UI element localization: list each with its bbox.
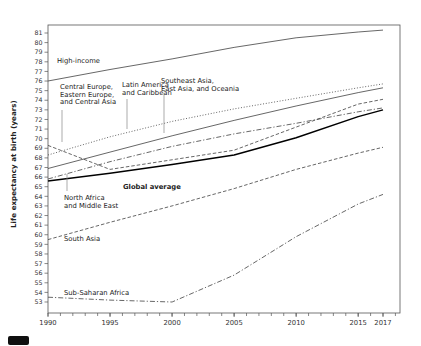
series-label-southeast-asia: Southeast Asia,East Asia, and Oceania xyxy=(161,77,239,93)
series-line-high-income xyxy=(48,30,383,81)
series-line-sub-saharan-africa xyxy=(48,194,383,302)
x-tick-label: 2000 xyxy=(163,319,180,327)
x-tick-label: 1995 xyxy=(101,319,118,327)
y-tick-label: 54 xyxy=(34,289,42,296)
y-tick-label: 58 xyxy=(34,250,42,257)
x-tick-label: 2015 xyxy=(350,319,367,327)
y-tick-label: 62 xyxy=(34,212,42,219)
y-tick-label: 81 xyxy=(34,29,42,36)
life-expectancy-chart: 5354555657585960616263646566676869707172… xyxy=(0,0,421,346)
y-tick-label: 79 xyxy=(34,48,42,55)
y-tick-label: 61 xyxy=(34,221,42,228)
series-label-central-europe: Central Europe,Eastern Europe,and Centra… xyxy=(60,83,116,106)
y-tick-label: 68 xyxy=(34,154,42,161)
y-tick-label: 55 xyxy=(34,279,42,286)
x-tick-label: 2005 xyxy=(225,319,242,327)
series-label-south-asia: South Asia xyxy=(64,235,100,243)
y-tick-label: 72 xyxy=(34,116,42,123)
y-tick-label: 75 xyxy=(34,87,42,94)
series-line-central-europe-eastern-europe-and-central-asia xyxy=(48,99,383,169)
y-tick-label: 76 xyxy=(34,77,42,84)
series-label-north-africa: North Africaand Middle East xyxy=(64,194,119,210)
y-tick-label: 69 xyxy=(34,144,42,151)
y-tick-label: 56 xyxy=(34,269,42,276)
series-label-global-average: Global average xyxy=(123,183,181,191)
series-label-high-income: High-income xyxy=(57,57,100,65)
y-tick-label: 73 xyxy=(34,106,42,113)
y-tick-label: 71 xyxy=(34,125,42,132)
y-tick-label: 70 xyxy=(34,135,42,142)
x-tick-label: 1990 xyxy=(39,319,56,327)
y-tick-label: 60 xyxy=(34,231,42,238)
y-tick-label: 53 xyxy=(34,298,42,305)
series-line-global-average xyxy=(48,110,383,181)
series-line-north-africa-and-middle-east xyxy=(48,108,383,179)
y-tick-label: 63 xyxy=(34,202,42,209)
y-tick-label: 74 xyxy=(34,96,42,103)
series-label-sub-saharan: Sub-Saharan Africa xyxy=(64,289,129,297)
corner-black-mark xyxy=(8,336,29,345)
x-tick-label: 2017 xyxy=(374,319,391,327)
y-tick-label: 80 xyxy=(34,39,42,46)
y-tick-label: 78 xyxy=(34,58,42,65)
y-tick-label: 57 xyxy=(34,260,42,267)
y-axis-title: Life expectancy at birth (years) xyxy=(10,54,18,274)
y-tick-label: 67 xyxy=(34,164,42,171)
y-tick-label: 64 xyxy=(34,193,42,200)
y-tick-label: 65 xyxy=(34,183,42,190)
plot-border xyxy=(48,25,400,313)
y-tick-label: 66 xyxy=(34,173,42,180)
y-tick-label: 59 xyxy=(34,241,42,248)
figure-container: 5354555657585960616263646566676869707172… xyxy=(0,0,421,346)
y-tick-label: 77 xyxy=(34,68,42,75)
x-tick-label: 2010 xyxy=(287,319,304,327)
